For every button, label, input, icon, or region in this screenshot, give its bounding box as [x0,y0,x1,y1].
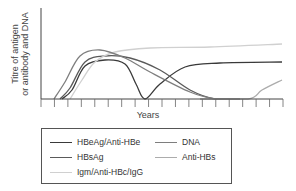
legend-label: Anti-HBs [182,152,216,162]
legend-swatch [155,157,177,158]
legend-label: HBsAg [77,152,103,162]
series-line-hbsag [60,56,240,99]
legend-swatch [155,142,177,143]
legend: HBeAg/Anti-HBe DNA HBsAg Anti-HBs Igm/An… [41,128,232,184]
legend-label: DNA [182,137,200,147]
legend-item-anti-hbs: Anti-HBs [155,152,216,162]
legend-item-dna: DNA [155,137,200,147]
x-ticks [41,99,283,107]
legend-item-hbeag: HBeAg/Anti-HBe [50,137,140,147]
legend-label: Igm/Anti-HBc/IgG [77,167,143,177]
series-line-anti-hbs [200,80,282,99]
x-axis-label: Years [0,110,296,120]
y-axis-label-text: Titre of antigenor antibody and DNA [10,12,30,96]
y-axis-label: Titre of antigenor antibody and DNA [4,10,36,98]
series-layer [54,44,282,99]
legend-item-igm-igg: Igm/Anti-HBc/IgG [50,167,143,177]
legend-item-hbsag: HBsAg [50,152,103,162]
series-line-dna [54,50,230,99]
legend-swatch [50,172,72,173]
legend-swatch [50,142,72,143]
legend-label: HBeAg/Anti-HBe [77,137,140,147]
series-line-hbeag-anti-hbe [62,60,282,99]
legend-swatch [50,157,72,158]
